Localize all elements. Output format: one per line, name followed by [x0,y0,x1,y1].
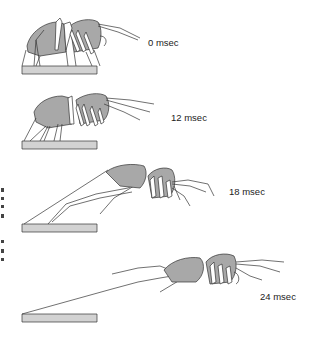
time-label-12: 12 msec [171,112,207,123]
time-label-18: 18 msec [229,186,265,197]
frame-18-spider [22,164,214,232]
spider-illustrations [0,0,309,339]
frame-12-spider [22,94,154,149]
jump-sequence-figure: 0 msec 12 msec 18 msec 24 msec [0,0,309,339]
time-label-24: 24 msec [260,291,296,302]
platform-icon [22,66,97,74]
time-label-0: 0 msec [148,37,179,48]
frame-0-spider [22,18,140,74]
frame-24-spider [22,254,284,322]
platform-icon [22,314,97,322]
platform-icon [22,224,97,232]
platform-icon [22,141,97,149]
